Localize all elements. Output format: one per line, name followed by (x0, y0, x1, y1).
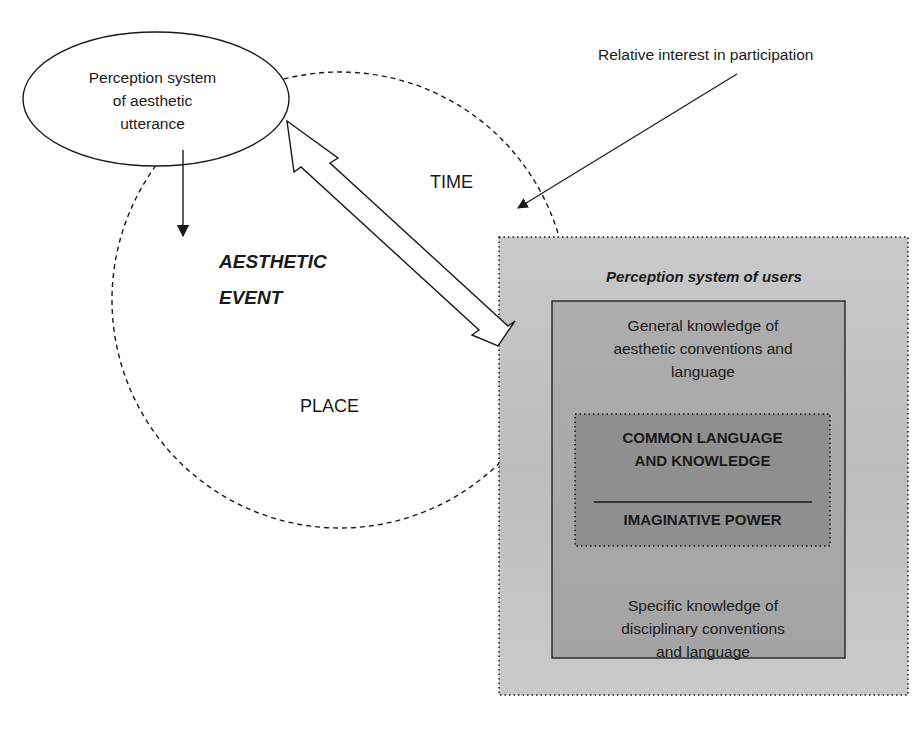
specific-knowledge-label: Specific knowledge of disciplinary conve… (553, 594, 853, 663)
general-line-1: General knowledge of (553, 314, 853, 337)
general-line-3: language (553, 360, 853, 383)
general-knowledge-label: General knowledge of aesthetic conventio… (553, 314, 853, 383)
specific-line-1: Specific knowledge of (553, 594, 853, 617)
common-line-2: AND KNOWLEDGE (575, 449, 830, 472)
utterance-line-1: Perception system (50, 66, 255, 89)
utterance-perception-label: Perception system of aesthetic utterance (50, 66, 255, 135)
aesthetic-event-line-1: AESTHETIC (219, 244, 327, 280)
time-label: TIME (430, 172, 473, 193)
relative-interest-label: Relative interest in participation (598, 46, 813, 64)
utterance-line-2: of aesthetic (50, 89, 255, 112)
common-line-1: COMMON LANGUAGE (575, 426, 830, 449)
imaginative-power-label: IMAGINATIVE POWER (575, 511, 830, 528)
aesthetic-event-label: AESTHETIC EVENT (219, 244, 327, 316)
utterance-line-3: utterance (50, 112, 255, 135)
general-line-2: aesthetic conventions and (553, 337, 853, 360)
users-perception-title: Perception system of users (500, 268, 908, 285)
common-language-label: COMMON LANGUAGE AND KNOWLEDGE (575, 426, 830, 472)
interest-arrow (518, 74, 737, 208)
aesthetic-event-line-2: EVENT (219, 280, 327, 316)
specific-line-3: and language (553, 640, 853, 663)
place-label: PLACE (300, 396, 359, 417)
specific-line-2: disciplinary conventions (553, 617, 853, 640)
